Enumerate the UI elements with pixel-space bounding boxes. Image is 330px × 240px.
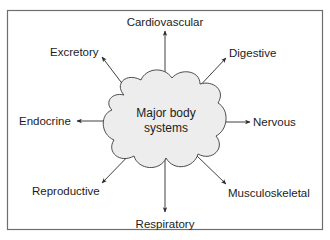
node-excretory: Excretory — [50, 46, 99, 58]
node-musculoskeletal: Musculoskeletal — [228, 187, 310, 199]
node-endocrine: Endocrine — [19, 115, 71, 127]
node-digestive: Digestive — [229, 47, 276, 59]
node-reproductive: Reproductive — [32, 185, 100, 197]
node-cardiovascular: Cardiovascular — [127, 16, 204, 28]
node-nervous: Nervous — [253, 116, 296, 128]
node-respiratory: Respiratory — [136, 218, 195, 230]
center-label-line2: systems — [144, 121, 188, 135]
center-label-line1: Major body — [136, 106, 195, 120]
body-systems-diagram: Major body systems Cardiovascular Digest… — [0, 0, 330, 240]
